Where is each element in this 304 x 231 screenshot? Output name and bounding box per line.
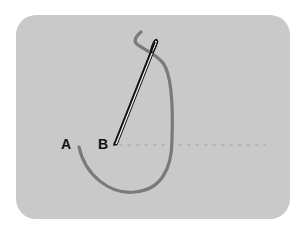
stitch-illustration	[0, 0, 304, 231]
thread	[79, 32, 172, 192]
point-a-label: A	[61, 137, 71, 151]
needle-icon	[113, 39, 158, 146]
point-b-label: B	[98, 137, 108, 151]
